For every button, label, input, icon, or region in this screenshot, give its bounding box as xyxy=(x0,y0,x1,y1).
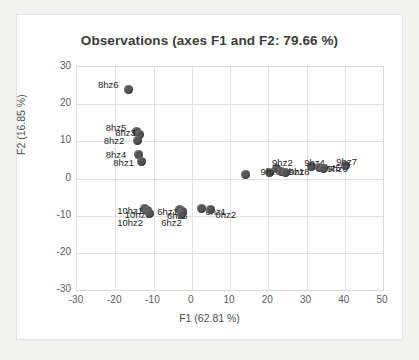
x-axis-tick-label: -20 xyxy=(97,294,131,305)
gridline-vertical xyxy=(192,67,193,290)
y-axis-tick-label: 10 xyxy=(37,134,71,145)
y-axis-tick-label: -20 xyxy=(37,246,71,257)
x-axis-title: F1 (62.81 %) xyxy=(17,312,402,324)
gridline-vertical xyxy=(307,67,308,290)
y-axis-tick-label: 20 xyxy=(37,97,71,108)
data-point-label: 8hz6 xyxy=(98,80,119,90)
gridline-vertical xyxy=(230,67,231,290)
x-axis-tick-label: 50 xyxy=(365,294,399,305)
data-point[interactable] xyxy=(133,136,142,145)
x-axis-tick-label: 30 xyxy=(289,294,323,305)
chart-title: Observations (axes F1 and F2: 79.66 %) xyxy=(17,33,402,48)
gridline-vertical xyxy=(268,67,269,290)
x-axis-tick-label: 0 xyxy=(174,294,208,305)
chart-card: Observations (axes F1 and F2: 79.66 %) F… xyxy=(16,14,403,340)
data-point-label: 0hz2 xyxy=(215,210,236,220)
y-axis-tick-label: 0 xyxy=(37,172,71,183)
data-point[interactable] xyxy=(124,85,133,94)
gridline-vertical xyxy=(345,67,346,290)
x-axis-tick-label: -30 xyxy=(59,294,93,305)
data-point-label: 9hz8 xyxy=(289,167,310,177)
data-point-label: 9hz7 xyxy=(336,157,357,167)
data-point-label: 6hz2 xyxy=(161,218,182,228)
x-axis-tick-label: 40 xyxy=(327,294,361,305)
x-axis-tick-label: 20 xyxy=(250,294,284,305)
data-point[interactable] xyxy=(137,157,146,166)
data-point-label: 8hz2 xyxy=(104,136,125,146)
x-axis-tick-label: 10 xyxy=(212,294,246,305)
y-axis-tick-label: 30 xyxy=(37,60,71,71)
y-axis-tick-label: -10 xyxy=(37,209,71,220)
x-axis-tick-label: -10 xyxy=(136,294,170,305)
plot-area: 8hz68hz58hz38hz28hz48hz110hz110hz310hz26… xyxy=(76,66,384,291)
gridline-vertical xyxy=(115,67,116,290)
data-point-label: 10hz2 xyxy=(117,218,143,228)
y-axis-title: F2 (16.85 %) xyxy=(15,94,27,155)
y-axis-tick-label: -30 xyxy=(37,283,71,294)
gridline-vertical xyxy=(154,67,155,290)
data-point-label: 8hz1 xyxy=(113,158,134,168)
